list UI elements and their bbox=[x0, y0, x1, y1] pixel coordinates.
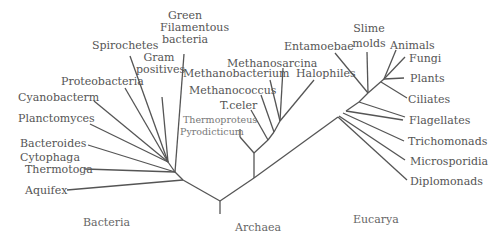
label-line: bacteria bbox=[160, 34, 210, 46]
label-planctomyces: Planctomyces bbox=[18, 113, 95, 125]
label-proteobacteria: Proteobacteria bbox=[61, 76, 144, 88]
label-pyrodicticum: Pyrodicticum bbox=[180, 126, 244, 138]
label-slime-molds: Slime molds bbox=[352, 23, 386, 50]
label-aquifex: Aquifex bbox=[25, 185, 67, 197]
label-halophiles: Halophiles bbox=[296, 68, 356, 80]
label-cyanobacteria: Cyanobacterm bbox=[18, 92, 99, 104]
label-flagellates: Flagellates bbox=[409, 115, 470, 127]
label-t-celer: T.celer bbox=[220, 100, 257, 112]
domain-label-bacteria: Bacteria bbox=[83, 217, 130, 229]
domain-label-archaea: Archaea bbox=[235, 222, 281, 234]
label-line: molds bbox=[352, 38, 386, 50]
label-diplomonads: Diplomonads bbox=[410, 176, 483, 188]
label-ciliates: Ciliates bbox=[408, 94, 450, 106]
label-green-filamentous-bacteria: Green Filamentous bacteria bbox=[160, 10, 210, 46]
label-line: Bacteroides bbox=[20, 138, 86, 150]
label-gram-positives: Gram positives bbox=[136, 52, 182, 76]
domain-label-eucarya: Eucarya bbox=[353, 214, 399, 226]
label-animals: Animals bbox=[390, 40, 435, 52]
label-methanobacterium: Methanobacterium bbox=[183, 68, 290, 80]
label-thermoproteus: Thermoproteus bbox=[183, 114, 257, 126]
label-plants: Plants bbox=[410, 73, 445, 85]
label-microsporidia: Microsporidia bbox=[410, 156, 488, 168]
label-entamoebae: Entamoebae bbox=[284, 41, 354, 53]
label-methanococcus: Methanococcus bbox=[189, 85, 276, 97]
label-line: Slime bbox=[352, 23, 386, 35]
label-trichomonads: Trichomonads bbox=[408, 136, 487, 148]
label-fungi: Fungi bbox=[409, 53, 441, 65]
label-thermotoga: Thermotoga bbox=[25, 164, 93, 176]
label-bacteroides-cytophaga: Bacteroides Cytophaga bbox=[20, 138, 86, 164]
